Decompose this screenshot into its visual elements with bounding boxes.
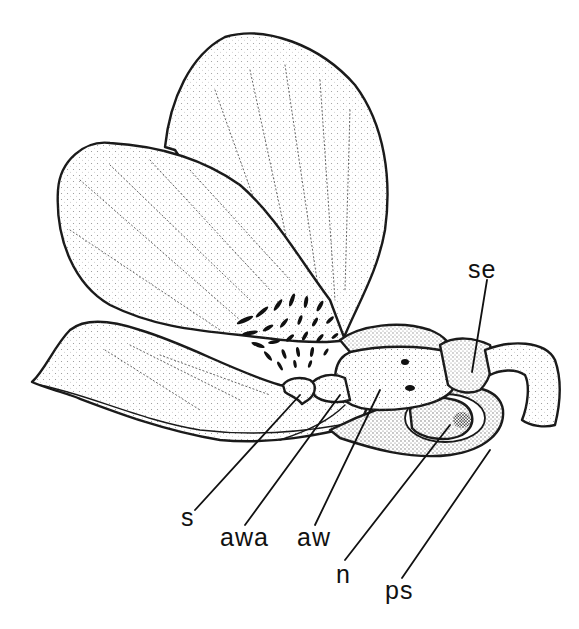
flower-illustration [0, 0, 579, 629]
label-aw: aw [297, 525, 331, 550]
label-awa: awa [220, 525, 269, 550]
label-se: se [468, 257, 496, 282]
label-ps: ps [385, 578, 413, 603]
label-n: n [336, 562, 351, 587]
label-s: s [181, 505, 195, 530]
